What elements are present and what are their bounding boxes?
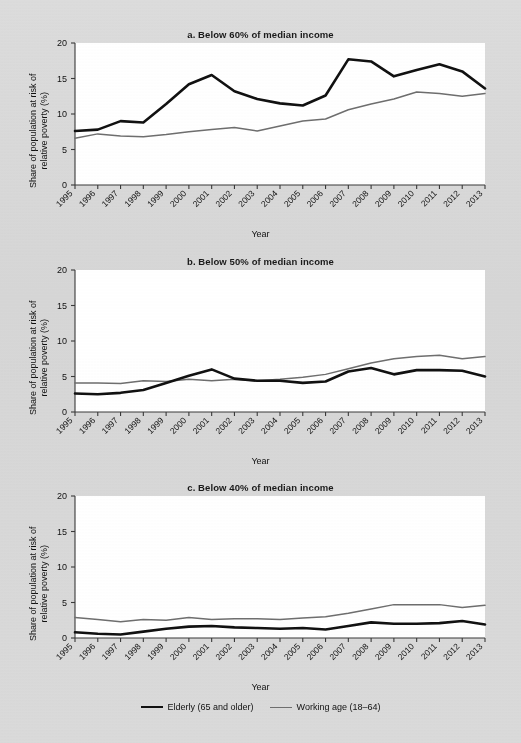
panel-a-x-axis-label: Year xyxy=(0,229,521,239)
x-tick-label: 1995 xyxy=(54,641,75,662)
x-tick-label: 2007 xyxy=(327,188,348,209)
x-tick-label: 1999 xyxy=(145,641,166,662)
y-tick-label: 15 xyxy=(57,301,67,311)
chart-panel-a: a. Below 60% of median income Share of p… xyxy=(0,0,521,252)
x-tick-label: 2007 xyxy=(327,415,348,436)
panel-b-x-axis-label: Year xyxy=(0,456,521,466)
x-tick-label: 2005 xyxy=(282,415,303,436)
x-tick-label: 2001 xyxy=(191,415,212,436)
y-tick-label: 5 xyxy=(62,598,67,608)
x-tick-label: 1996 xyxy=(77,188,98,209)
y-tick-label: 20 xyxy=(57,38,67,48)
x-tick-label: 1998 xyxy=(122,188,143,209)
panel-b-plot: 0510152019951996199719981999200020012002… xyxy=(0,252,521,480)
x-tick-label: 1995 xyxy=(54,415,75,436)
chart-panel-b: b. Below 50% of median income Share of p… xyxy=(0,252,521,480)
panel-c-x-axis-label: Year xyxy=(0,682,521,692)
x-tick-label: 2006 xyxy=(305,188,326,209)
x-tick-label: 2002 xyxy=(213,188,234,209)
x-tick-label: 1997 xyxy=(100,188,121,209)
panel-a-plot: 0510152019951996199719981999200020012002… xyxy=(0,0,521,252)
x-tick-label: 2000 xyxy=(168,415,189,436)
legend-line-working-age-icon xyxy=(270,707,292,708)
x-tick-label: 2013 xyxy=(464,641,485,662)
x-tick-label: 2013 xyxy=(464,415,485,436)
x-tick-label: 2006 xyxy=(305,641,326,662)
x-tick-label: 2012 xyxy=(441,188,462,209)
x-tick-label: 2010 xyxy=(396,641,417,662)
x-tick-label: 2012 xyxy=(441,415,462,436)
x-tick-label: 1998 xyxy=(122,641,143,662)
x-tick-label: 2003 xyxy=(236,641,257,662)
x-tick-label: 2006 xyxy=(305,415,326,436)
x-tick-label: 2003 xyxy=(236,188,257,209)
x-tick-label: 2005 xyxy=(282,641,303,662)
x-tick-label: 2010 xyxy=(396,415,417,436)
x-tick-label: 2004 xyxy=(259,415,280,436)
x-tick-label: 1997 xyxy=(100,415,121,436)
x-tick-label: 1997 xyxy=(100,641,121,662)
x-tick-label: 2009 xyxy=(373,188,394,209)
y-tick-label: 10 xyxy=(57,109,67,119)
y-tick-label: 10 xyxy=(57,562,67,572)
x-tick-label: 2011 xyxy=(419,415,439,435)
chart-panel-c: c. Below 40% of median income Share of p… xyxy=(0,480,521,700)
plot-area xyxy=(75,496,485,638)
x-tick-label: 1998 xyxy=(122,415,143,436)
y-tick-label: 15 xyxy=(57,74,67,84)
y-tick-label: 5 xyxy=(62,145,67,155)
x-tick-label: 2003 xyxy=(236,415,257,436)
x-tick-label: 2008 xyxy=(350,188,371,209)
x-tick-label: 2004 xyxy=(259,188,280,209)
legend-item-elderly: Elderly (65 and older) xyxy=(141,702,254,712)
x-tick-label: 2002 xyxy=(213,641,234,662)
x-tick-label: 2013 xyxy=(464,188,485,209)
legend-label-working-age: Working age (18–64) xyxy=(297,702,381,712)
x-tick-label: 1995 xyxy=(54,188,75,209)
x-tick-label: 2010 xyxy=(396,188,417,209)
x-tick-label: 1996 xyxy=(77,415,98,436)
x-tick-label: 1999 xyxy=(145,188,166,209)
y-tick-label: 10 xyxy=(57,336,67,346)
x-tick-label: 2000 xyxy=(168,188,189,209)
figure-legend: Elderly (65 and older) Working age (18–6… xyxy=(0,702,521,712)
x-tick-label: 2005 xyxy=(282,188,303,209)
plot-area xyxy=(75,43,485,185)
y-tick-label: 5 xyxy=(62,372,67,382)
x-tick-label: 2001 xyxy=(191,188,212,209)
y-tick-label: 20 xyxy=(57,491,67,501)
x-tick-label: 1996 xyxy=(77,641,98,662)
legend-label-elderly: Elderly (65 and older) xyxy=(168,702,254,712)
x-tick-label: 2012 xyxy=(441,641,462,662)
x-tick-label: 2001 xyxy=(191,641,212,662)
x-tick-label: 2007 xyxy=(327,641,348,662)
legend-line-elderly-icon xyxy=(141,706,163,708)
figure-page: a. Below 60% of median income Share of p… xyxy=(0,0,521,743)
x-tick-label: 2008 xyxy=(350,415,371,436)
x-tick-label: 2009 xyxy=(373,415,394,436)
legend-item-working-age: Working age (18–64) xyxy=(270,702,381,712)
y-tick-label: 20 xyxy=(57,265,67,275)
x-tick-label: 2009 xyxy=(373,641,394,662)
x-tick-label: 2011 xyxy=(419,188,439,208)
y-tick-label: 15 xyxy=(57,527,67,537)
panel-c-plot: 0510152019951996199719981999200020012002… xyxy=(0,480,521,700)
x-tick-label: 2008 xyxy=(350,641,371,662)
x-tick-label: 2004 xyxy=(259,641,280,662)
x-tick-label: 1999 xyxy=(145,415,166,436)
x-tick-label: 2002 xyxy=(213,415,234,436)
x-tick-label: 2000 xyxy=(168,641,189,662)
x-tick-label: 2011 xyxy=(419,641,439,661)
